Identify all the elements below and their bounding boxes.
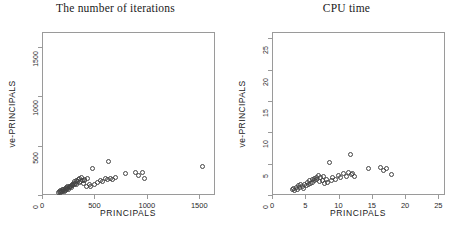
y-tick-label: 0 xyxy=(262,195,269,219)
x-tick-label: 5 xyxy=(303,201,307,210)
panel-iterations: The number of iterations 050010001500 05… xyxy=(0,0,231,234)
x-tick-label: 20 xyxy=(401,201,409,210)
data-point xyxy=(90,166,95,171)
panel-title-cpu-time: CPU time xyxy=(231,2,462,14)
x-tick-mark xyxy=(94,195,95,199)
data-point xyxy=(200,164,205,169)
data-point xyxy=(142,176,147,181)
y-tick-label: 20 xyxy=(262,70,269,94)
x-tick-label: 500 xyxy=(88,201,101,210)
y-tick-mark xyxy=(38,146,42,147)
y-tick-label: 5 xyxy=(262,164,269,188)
data-point xyxy=(344,174,349,179)
data-point xyxy=(333,177,338,182)
y-tick-mark xyxy=(38,96,42,97)
x-tick-mark xyxy=(405,195,406,199)
data-point xyxy=(106,159,111,164)
figure-root: The number of iterations 050010001500 05… xyxy=(0,0,462,234)
y-tick-label: 15 xyxy=(262,101,269,125)
data-point xyxy=(366,166,371,171)
y-tick-label: 0 xyxy=(32,195,39,219)
data-point xyxy=(389,172,394,177)
panel-cpu-time: CPU time 0510152025 0510152025 PRINCIPAL… xyxy=(231,0,462,234)
x-tick-label: 25 xyxy=(434,201,442,210)
data-point xyxy=(384,166,389,171)
y-tick-label: 1500 xyxy=(32,47,39,71)
data-point xyxy=(113,175,118,180)
scatter-points-cpu-time xyxy=(273,33,444,194)
y-tick-mark xyxy=(268,132,272,133)
y-tick-mark xyxy=(268,70,272,71)
data-point xyxy=(85,176,90,181)
scatter-points-iterations xyxy=(43,33,214,194)
x-tick-mark xyxy=(42,195,43,199)
y-tick-mark xyxy=(38,47,42,48)
data-point xyxy=(352,174,357,179)
x-tick-mark xyxy=(438,195,439,199)
x-axis-title-cpu-time: PRINCIPALS xyxy=(330,208,386,218)
x-tick-label: 0 xyxy=(40,201,44,210)
y-axis-title-cpu-time: ve-PRINCIPALS xyxy=(237,69,247,159)
y-axis-title-iterations: ve-PRINCIPALS xyxy=(7,69,17,159)
plot-area-iterations xyxy=(42,32,215,195)
data-point xyxy=(338,175,343,180)
data-point xyxy=(327,160,332,165)
plot-area-cpu-time xyxy=(272,32,445,195)
x-tick-mark xyxy=(372,195,373,199)
data-point xyxy=(348,152,353,157)
data-point xyxy=(123,171,128,176)
y-tick-label: 25 xyxy=(262,38,269,62)
x-axis-title-iterations: PRINCIPALS xyxy=(100,208,156,218)
y-tick-label: 500 xyxy=(32,146,39,170)
y-tick-label: 1000 xyxy=(32,96,39,120)
panel-title-iterations: The number of iterations xyxy=(0,2,231,14)
y-tick-mark xyxy=(268,38,272,39)
y-tick-label: 10 xyxy=(262,132,269,156)
x-tick-mark xyxy=(305,195,306,199)
x-tick-mark xyxy=(147,195,148,199)
y-tick-mark xyxy=(268,164,272,165)
x-tick-mark xyxy=(199,195,200,199)
x-tick-mark xyxy=(272,195,273,199)
x-tick-label: 1500 xyxy=(191,201,208,210)
data-point xyxy=(140,170,145,175)
y-tick-mark xyxy=(268,101,272,102)
x-tick-label: 0 xyxy=(270,201,274,210)
x-tick-mark xyxy=(339,195,340,199)
